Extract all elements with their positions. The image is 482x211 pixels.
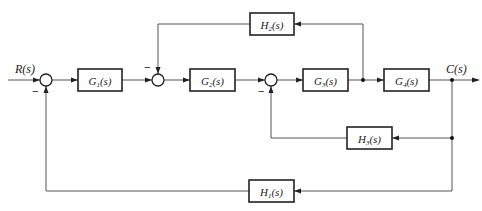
arrow-icon <box>156 67 161 74</box>
arrow-icon <box>33 78 40 83</box>
minus-sign: − <box>144 61 150 73</box>
block-h3: H3(s) <box>347 127 392 149</box>
block-g4: G4(s) <box>384 69 429 91</box>
summing-junction-3: − <box>258 74 277 97</box>
arrow-icon <box>258 78 265 83</box>
arrow-icon <box>71 78 78 83</box>
arrow-icon <box>377 78 384 83</box>
block-h1: H1(s) <box>249 180 294 202</box>
arrow-icon <box>44 86 49 93</box>
summing-junction-1: − <box>32 74 52 97</box>
block-h2: H2(s) <box>250 13 294 35</box>
arrow-icon <box>269 86 274 93</box>
arrow-icon <box>294 189 301 194</box>
arrow-icon <box>392 136 399 141</box>
block-diagram: − − − G1(s) G2(s) G3(s) G4(s) H2(s) H3(s… <box>0 0 482 211</box>
summing-junction-2: − <box>144 61 164 86</box>
arrow-icon <box>145 78 152 83</box>
output-label: C(s) <box>446 62 467 76</box>
branch-point <box>361 78 365 82</box>
input-label: R(s) <box>14 62 35 76</box>
block-g3: G3(s) <box>303 69 348 91</box>
arrow-icon <box>294 22 301 27</box>
block-g1: G1(s) <box>78 69 122 91</box>
arrow-icon <box>296 78 303 83</box>
minus-sign: − <box>32 85 38 97</box>
branch-point <box>450 136 454 140</box>
block-g2: G2(s) <box>190 69 235 91</box>
minus-sign: − <box>258 85 264 97</box>
output-branch-point <box>450 78 454 82</box>
arrow-icon <box>183 78 190 83</box>
arrow-icon <box>472 78 480 83</box>
